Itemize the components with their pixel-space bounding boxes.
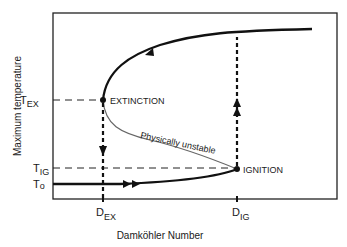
plot-frame bbox=[53, 13, 337, 199]
y-tick-t0: To bbox=[33, 178, 45, 191]
lower-branch bbox=[120, 169, 237, 184]
up-arrow-2 bbox=[233, 107, 241, 116]
extinction-label: EXTINCTION bbox=[110, 96, 165, 106]
s-curve-diagram: EXTINCTION IGNITION Physically unstable … bbox=[0, 0, 347, 247]
ignition-point bbox=[234, 166, 240, 172]
unstable-label: Physically unstable bbox=[140, 130, 217, 156]
x-tick-label-dig: DIG bbox=[232, 206, 249, 222]
y-tick-tig: TIG bbox=[33, 162, 49, 177]
lower-arrow-1 bbox=[123, 180, 131, 188]
unstable-branch bbox=[103, 100, 237, 169]
x-tick-label-dex: DEX bbox=[96, 206, 116, 222]
x-axis-label: Damköhler Number bbox=[117, 230, 204, 241]
extinction-point bbox=[100, 97, 106, 103]
y-axis-label: Maximum temperature bbox=[12, 56, 23, 156]
ignition-label: IGNITION bbox=[243, 165, 283, 175]
up-arrow-1 bbox=[233, 98, 241, 107]
upper-branch bbox=[103, 29, 312, 100]
lower-arrow-2 bbox=[132, 180, 140, 188]
down-arrow bbox=[99, 146, 107, 156]
